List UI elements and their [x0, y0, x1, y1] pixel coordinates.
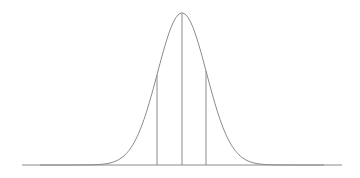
- bell-curve-diagram: [0, 0, 360, 178]
- sigma-markers: [157, 13, 206, 165]
